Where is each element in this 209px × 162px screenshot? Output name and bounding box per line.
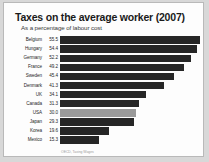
chart-card: Taxes on the average worker (2007) As a … xyxy=(3,2,204,157)
bar-track xyxy=(60,127,201,134)
bar-value-label: 54.4 xyxy=(43,46,58,51)
bar-track xyxy=(60,136,201,143)
bar-value-label: 55.5 xyxy=(43,37,58,42)
bar xyxy=(60,82,164,89)
bar-value-label: 29.3 xyxy=(43,119,58,124)
bar-category-label: USA xyxy=(4,110,42,115)
bar-track xyxy=(60,36,201,43)
bar-row: Mexico15.3 xyxy=(4,136,204,145)
bar-value-label: 15.3 xyxy=(43,137,58,142)
chart-subtitle: As a percentage of labour cost xyxy=(21,24,102,31)
bar-row: Denmark41.3 xyxy=(4,81,204,90)
bar-value-label: 34.1 xyxy=(43,92,58,97)
bar xyxy=(60,118,134,125)
bar xyxy=(60,73,174,80)
bar-track xyxy=(60,118,201,125)
bar-track xyxy=(60,91,201,98)
bar-category-label: Canada xyxy=(4,101,42,106)
bar-value-label: 41.3 xyxy=(43,83,58,88)
bar-category-label: Germany xyxy=(4,55,42,60)
bar-row: Canada31.3 xyxy=(4,100,204,109)
bar-track xyxy=(60,64,201,71)
bar-row: Korea19.6 xyxy=(4,127,204,136)
bar-track xyxy=(60,45,201,52)
bar-row: France49.2 xyxy=(4,63,204,72)
bar xyxy=(60,127,109,134)
bar-category-label: Belgium xyxy=(4,37,42,42)
bar-value-label: 52.2 xyxy=(43,55,58,60)
bar-row: Germany52.2 xyxy=(4,54,204,63)
bar-category-label: Japan xyxy=(4,119,42,124)
bar-value-label: 30.0 xyxy=(43,110,58,115)
bar-category-label: Korea xyxy=(4,128,42,133)
bar xyxy=(60,100,139,107)
bar-value-label: 45.4 xyxy=(43,73,58,78)
chart-title: Taxes on the average worker (2007) xyxy=(15,11,185,23)
bar-chart-plot-area: Belgium55.5Hungary54.4Germany52.2France4… xyxy=(4,36,204,148)
bar-track xyxy=(60,55,201,62)
bar-track xyxy=(60,109,201,116)
bar-category-label: France xyxy=(4,64,42,69)
chart-source-note: OECD, Taxing Wages xyxy=(61,150,94,154)
bar-row: Hungary54.4 xyxy=(4,45,204,54)
bar xyxy=(60,36,200,43)
bar-highlighted xyxy=(60,109,136,116)
bar-category-label: UK xyxy=(4,92,42,97)
bar-track xyxy=(60,82,201,89)
bar-value-label: 49.2 xyxy=(43,64,58,69)
bar-category-label: Hungary xyxy=(4,46,42,51)
bar-row: Belgium55.5 xyxy=(4,36,204,45)
bar-category-label: Sweden xyxy=(4,73,42,78)
bar-category-label: Denmark xyxy=(4,83,42,88)
bar xyxy=(60,64,184,71)
bar-value-label: 19.6 xyxy=(43,128,58,133)
bar-category-label: Mexico xyxy=(4,137,42,142)
bar-value-label: 31.3 xyxy=(43,101,58,106)
bar-row: Japan29.3 xyxy=(4,118,204,127)
bar xyxy=(60,55,191,62)
bar xyxy=(60,45,197,52)
bar-track xyxy=(60,100,201,107)
bar-track xyxy=(60,73,201,80)
bar xyxy=(60,136,99,143)
bar xyxy=(60,91,146,98)
bar-row: USA30.0 xyxy=(4,109,204,118)
bar-row: Sweden45.4 xyxy=(4,72,204,81)
bar-row: UK34.1 xyxy=(4,91,204,100)
